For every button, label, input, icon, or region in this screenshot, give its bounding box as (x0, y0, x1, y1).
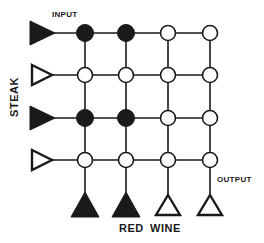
open-node (203, 153, 218, 168)
input-triangle-icon (32, 65, 52, 85)
open-node (119, 68, 134, 83)
output-triangle-icon (198, 195, 222, 215)
open-node (203, 68, 218, 83)
open-node (161, 153, 176, 168)
open-node (161, 68, 176, 83)
filled-node (77, 110, 94, 127)
filled-node (77, 25, 94, 42)
steak-label: STEAK (8, 77, 20, 117)
open-node (161, 26, 176, 41)
open-node (78, 68, 93, 83)
open-node (203, 111, 218, 126)
input-triangle-icon (30, 21, 55, 45)
input-triangle-icon (30, 106, 55, 130)
grid-nodes (77, 25, 218, 168)
input-triangle-icon (32, 150, 52, 170)
crossbar-diagram (0, 0, 264, 243)
filled-node (118, 110, 135, 127)
open-node (78, 153, 93, 168)
output-triangles (71, 192, 222, 217)
wine-label: WINE (150, 222, 181, 234)
output-triangle-icon (156, 195, 180, 215)
open-node (203, 26, 218, 41)
output-label: OUTPUT (217, 175, 252, 184)
output-triangle-icon (112, 192, 140, 217)
input-label: INPUT (52, 10, 78, 19)
open-node (119, 153, 134, 168)
filled-node (118, 25, 135, 42)
output-triangle-icon (71, 192, 99, 217)
open-node (161, 111, 176, 126)
red-label: RED (119, 222, 144, 234)
input-triangles (30, 21, 55, 170)
